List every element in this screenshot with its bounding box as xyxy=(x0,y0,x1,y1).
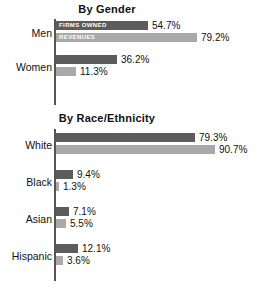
bar-value-men-revenues: 79.2% xyxy=(197,32,229,43)
bar-row-black-firms: 9.4% xyxy=(56,170,262,179)
plot-area-race-ethnicity: White 79.3% 90.7% Black 9.4% xyxy=(0,129,262,281)
bar-value-asian-firms-owned: 7.1% xyxy=(69,206,96,217)
category-label-asian: Asian xyxy=(0,213,52,225)
category-label-hispanic: Hispanic xyxy=(0,250,52,262)
bar-value-black-revenues: 1.3% xyxy=(59,181,86,192)
bar-value-asian-revenues: 5.5% xyxy=(66,218,93,229)
category-label-men: Men xyxy=(0,27,52,39)
bar-row-white-firms: 79.3% xyxy=(56,133,262,142)
chart-by-gender: By Gender Men FIRMS OWNED 54.7% REVENUES… xyxy=(0,0,262,110)
bar-row-women-revenues: 11.3% xyxy=(56,67,262,76)
bars-men: FIRMS OWNED 54.7% REVENUES 79.2% xyxy=(56,21,262,45)
bar-asian-revenues xyxy=(56,219,66,228)
bar-women-revenues xyxy=(56,67,76,76)
bars-black: 9.4% 1.3% xyxy=(56,170,262,194)
bar-value-women-firms-owned: 36.2% xyxy=(117,54,149,65)
bars-asian: 7.1% 5.5% xyxy=(56,207,262,231)
bar-inner-label-revenues: REVENUES xyxy=(59,33,95,42)
bar-value-women-revenues: 11.3% xyxy=(76,66,108,77)
bar-inner-label-firms-owned: FIRMS OWNED xyxy=(59,21,107,30)
bar-value-hispanic-revenues: 3.6% xyxy=(63,255,90,266)
bars-women: 36.2% 11.3% xyxy=(56,55,262,79)
bar-value-men-firms-owned: 54.7% xyxy=(148,20,180,31)
bar-row-women-firms: 36.2% xyxy=(56,55,262,64)
bar-value-hispanic-firms-owned: 12.1% xyxy=(78,243,110,254)
bar-row-hispanic-revenues: 3.6% xyxy=(56,256,262,265)
bar-row-men-firms: FIRMS OWNED 54.7% xyxy=(56,21,262,30)
chart-by-race-ethnicity: By Race/Ethnicity White 79.3% 90.7% Blac… xyxy=(0,110,262,289)
bar-row-asian-revenues: 5.5% xyxy=(56,219,262,228)
bar-value-white-revenues: 90.7% xyxy=(215,144,247,155)
bars-white: 79.3% 90.7% xyxy=(56,133,262,157)
bar-asian-firms-owned xyxy=(56,207,69,216)
chart-title-gender: By Gender xyxy=(0,0,262,15)
category-label-black: Black xyxy=(0,176,52,188)
bar-value-black-firms-owned: 9.4% xyxy=(73,169,100,180)
bar-hispanic-firms-owned xyxy=(56,244,78,253)
bar-black-firms-owned xyxy=(56,170,73,179)
bars-hispanic: 12.1% 3.6% xyxy=(56,244,262,268)
chart-title-race-ethnicity: By Race/Ethnicity xyxy=(0,110,262,124)
bar-white-firms-owned xyxy=(56,133,195,142)
bar-women-firms-owned xyxy=(56,55,117,64)
category-label-women: Women xyxy=(0,61,52,73)
bar-white-revenues xyxy=(56,145,215,154)
bar-row-white-revenues: 90.7% xyxy=(56,145,262,154)
bar-row-hispanic-firms: 12.1% xyxy=(56,244,262,253)
bar-row-men-revenues: REVENUES 79.2% xyxy=(56,33,262,42)
category-label-white: White xyxy=(0,139,52,151)
bar-value-white-firms-owned: 79.3% xyxy=(195,132,227,143)
bar-row-black-revenues: 1.3% xyxy=(56,182,262,191)
bar-row-asian-firms: 7.1% xyxy=(56,207,262,216)
plot-area-gender: Men FIRMS OWNED 54.7% REVENUES 79.2% Wom… xyxy=(0,19,262,105)
bar-hispanic-revenues xyxy=(56,256,63,265)
